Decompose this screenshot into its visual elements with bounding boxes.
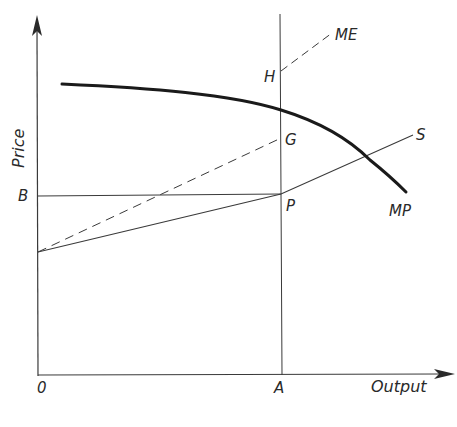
horizontal-line-b-p [38, 194, 281, 196]
price-output-diagram: Price Output 0 A B P G H ME S MP [0, 0, 457, 427]
point-label-p: P [286, 197, 296, 215]
curve-label-me: ME [335, 26, 358, 44]
y-axis [37, 30, 38, 376]
y-axis-label: Price [9, 129, 28, 168]
marginal-product-curve-mp [62, 84, 406, 192]
x-axis-label: Output [371, 377, 427, 396]
supply-curve-s [38, 135, 413, 252]
point-label-a: A [273, 379, 284, 397]
curve-label-s: S [416, 126, 426, 144]
x-axis [38, 374, 440, 375]
point-label-g: G [285, 131, 297, 149]
point-label-h: H [264, 68, 275, 86]
origin-label: 0 [37, 379, 47, 397]
curve-label-mp: MP [389, 202, 412, 220]
point-label-b: B [18, 187, 28, 205]
marginal-expense-curve-me [281, 33, 332, 71]
